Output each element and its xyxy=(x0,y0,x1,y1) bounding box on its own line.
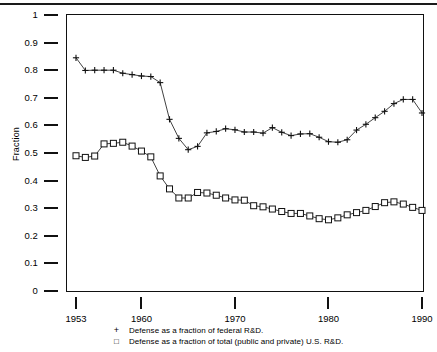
chart-figure: Fraction 00.10.20.30.40.50.60.70.80.91 1… xyxy=(0,0,437,352)
data-point-square xyxy=(419,207,425,213)
data-point-plus xyxy=(148,73,154,79)
data-point-square xyxy=(391,199,397,205)
legend-item-label: Defense as a fraction of total (public a… xyxy=(129,336,343,347)
data-point-plus xyxy=(325,139,331,145)
data-point-square xyxy=(167,186,173,192)
data-point-square xyxy=(176,195,182,201)
data-point-square xyxy=(82,154,88,160)
chart-legend: + Defense as a fraction of federal R&D. … xyxy=(112,325,432,347)
data-point-square xyxy=(251,203,257,209)
data-point-square xyxy=(129,143,135,149)
data-point-plus xyxy=(241,129,247,135)
data-point-square xyxy=(344,212,350,218)
series-federal-rnd xyxy=(73,55,425,153)
data-point-square xyxy=(223,195,229,201)
data-point-plus xyxy=(288,133,294,139)
data-point-square xyxy=(241,197,247,203)
data-point-plus xyxy=(260,130,266,136)
data-point-square xyxy=(372,204,378,210)
data-point-plus xyxy=(372,115,378,121)
data-point-plus xyxy=(269,125,275,131)
data-point-square xyxy=(354,210,360,216)
data-point-plus xyxy=(82,67,88,73)
data-point-square xyxy=(138,148,144,154)
x-axis-tick-label: 1980 xyxy=(308,313,348,324)
data-point-square xyxy=(110,140,116,146)
x-axis-tick-mark xyxy=(140,297,142,309)
series-total-rnd xyxy=(73,139,425,223)
data-point-square xyxy=(269,206,275,212)
data-point-square xyxy=(297,210,303,216)
data-point-plus xyxy=(410,96,416,102)
data-point-square xyxy=(73,153,79,159)
data-point-plus xyxy=(110,67,116,73)
x-axis-tick-mark xyxy=(421,297,423,309)
data-point-plus xyxy=(129,72,135,78)
data-point-plus xyxy=(101,67,107,73)
data-point-plus xyxy=(297,131,303,137)
data-point-square xyxy=(316,216,322,222)
legend-item-label: Defense as a fraction of federal R&D. xyxy=(129,325,263,336)
data-point-plus xyxy=(232,127,238,133)
data-point-square xyxy=(260,204,266,210)
legend-item: + Defense as a fraction of federal R&D. xyxy=(112,325,432,336)
data-point-plus xyxy=(213,128,219,134)
data-point-square xyxy=(157,173,163,179)
data-point-plus xyxy=(316,134,322,140)
data-point-square xyxy=(120,139,126,145)
x-axis-tick-mark xyxy=(327,297,329,309)
data-point-square xyxy=(382,200,388,206)
data-point-square xyxy=(363,207,369,213)
data-point-square xyxy=(307,213,313,219)
x-axis-tick-label: 1970 xyxy=(215,313,255,324)
data-point-square xyxy=(279,209,285,215)
data-point-square xyxy=(195,189,201,195)
series-line xyxy=(76,142,422,220)
data-point-plus xyxy=(419,110,425,116)
data-point-square xyxy=(204,190,210,196)
data-point-square xyxy=(410,204,416,210)
plus-marker-icon: + xyxy=(112,326,121,335)
x-axis-tick-mark xyxy=(75,297,77,309)
data-point-plus xyxy=(194,143,200,149)
data-point-plus xyxy=(363,121,369,127)
data-point-plus xyxy=(73,55,79,61)
data-point-square xyxy=(213,192,219,198)
x-axis-tick-label: 1960 xyxy=(121,313,161,324)
data-point-square xyxy=(148,154,154,160)
legend-item: □ Defense as a fraction of total (public… xyxy=(112,336,432,347)
data-point-plus xyxy=(166,116,172,122)
data-point-square xyxy=(288,210,294,216)
data-series-layer xyxy=(0,0,437,352)
data-point-square xyxy=(185,195,191,201)
x-axis-tick-mark xyxy=(234,297,236,309)
data-point-plus xyxy=(120,70,126,76)
data-point-plus xyxy=(223,126,229,132)
data-point-plus xyxy=(204,130,210,136)
data-point-square xyxy=(325,217,331,223)
x-axis-tick-label: 1990 xyxy=(402,313,437,324)
data-point-plus xyxy=(400,96,406,102)
data-point-plus xyxy=(157,80,163,86)
data-point-plus xyxy=(335,139,341,145)
data-point-square xyxy=(232,197,238,203)
data-point-plus xyxy=(279,129,285,135)
series-line xyxy=(76,58,422,150)
x-axis-tick-label: 1953 xyxy=(56,313,96,324)
data-point-plus xyxy=(92,67,98,73)
data-point-square xyxy=(101,141,107,147)
data-point-plus xyxy=(307,131,313,137)
data-point-square xyxy=(335,215,341,221)
data-point-square xyxy=(400,201,406,207)
square-marker-icon: □ xyxy=(112,337,121,346)
data-point-plus xyxy=(138,73,144,79)
data-point-plus xyxy=(251,129,257,135)
data-point-square xyxy=(92,153,98,159)
